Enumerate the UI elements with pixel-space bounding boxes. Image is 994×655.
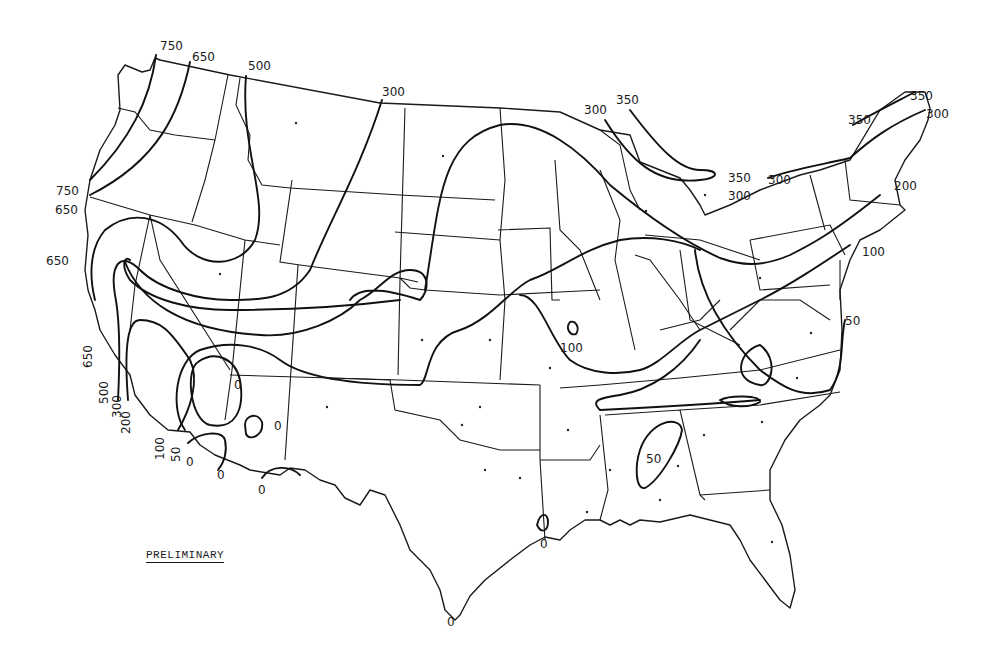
contour-label: 750 [160, 39, 183, 53]
us-outline [85, 58, 930, 620]
contour-label: 650 [46, 254, 69, 268]
contour-label: 200 [894, 179, 917, 193]
contour-label: 50 [845, 314, 860, 328]
contour-label: 0 [274, 419, 282, 433]
contour-label: 350 [728, 171, 751, 185]
contour-label: 300 [584, 103, 607, 117]
contour-label-rotated: 50 [169, 447, 183, 462]
contour-label: 350 [848, 113, 871, 127]
contour-label: 0 [447, 615, 455, 629]
contour-label: 100 [862, 245, 885, 259]
contour-label: 50 [646, 452, 661, 466]
contour-label-rotated: 650 [81, 345, 95, 368]
contour-label: 0 [258, 483, 266, 497]
contour-label-rotated: 200 [119, 411, 133, 434]
station-dots [219, 122, 812, 543]
contour-label: 0 [540, 537, 548, 551]
contour-label: 0 [217, 468, 225, 482]
contour-label: 500 [248, 59, 271, 73]
contour-label: 350 [910, 89, 933, 103]
contour-label: 350 [616, 93, 639, 107]
contour-label: 650 [55, 203, 78, 217]
contour-label: 0 [186, 455, 194, 469]
isopleths [90, 55, 925, 531]
contour-label: 300 [728, 189, 751, 203]
contour-label: 650 [192, 50, 215, 64]
contour-label-rotated: 500 [97, 381, 111, 404]
contour-labels: 750 650 500 300 750 650 650 300 350 350 … [46, 39, 949, 629]
contour-label: 300 [768, 173, 791, 187]
contour-label: 0 [234, 378, 242, 392]
contour-label: 750 [56, 184, 79, 198]
contour-label: 300 [926, 107, 949, 121]
contour-label: 100 [560, 341, 583, 355]
contour-label-rotated: 100 [153, 437, 167, 460]
contour-label: 300 [382, 85, 405, 99]
preliminary-stamp: PRELIMINARY [146, 549, 224, 563]
